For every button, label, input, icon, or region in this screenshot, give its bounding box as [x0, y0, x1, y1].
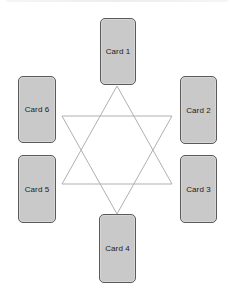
downward-triangle [62, 116, 172, 214]
card-label: Card 1 [106, 47, 131, 56]
card-2[interactable]: Card 2 [180, 76, 217, 144]
card-label: Card 2 [186, 106, 211, 115]
upward-triangle [62, 86, 172, 184]
card-label: Card 6 [25, 105, 50, 114]
card-spread-diagram: Card 1 Card 2 Card 3 Card 4 Card 5 Card … [0, 0, 233, 301]
card-3[interactable]: Card 3 [180, 155, 217, 223]
card-1[interactable]: Card 1 [100, 18, 136, 85]
card-label: Card 4 [105, 244, 130, 253]
card-label: Card 5 [25, 185, 50, 194]
card-4[interactable]: Card 4 [99, 214, 136, 283]
card-6[interactable]: Card 6 [18, 76, 56, 143]
card-label: Card 3 [186, 185, 211, 194]
card-5[interactable]: Card 5 [18, 155, 56, 223]
